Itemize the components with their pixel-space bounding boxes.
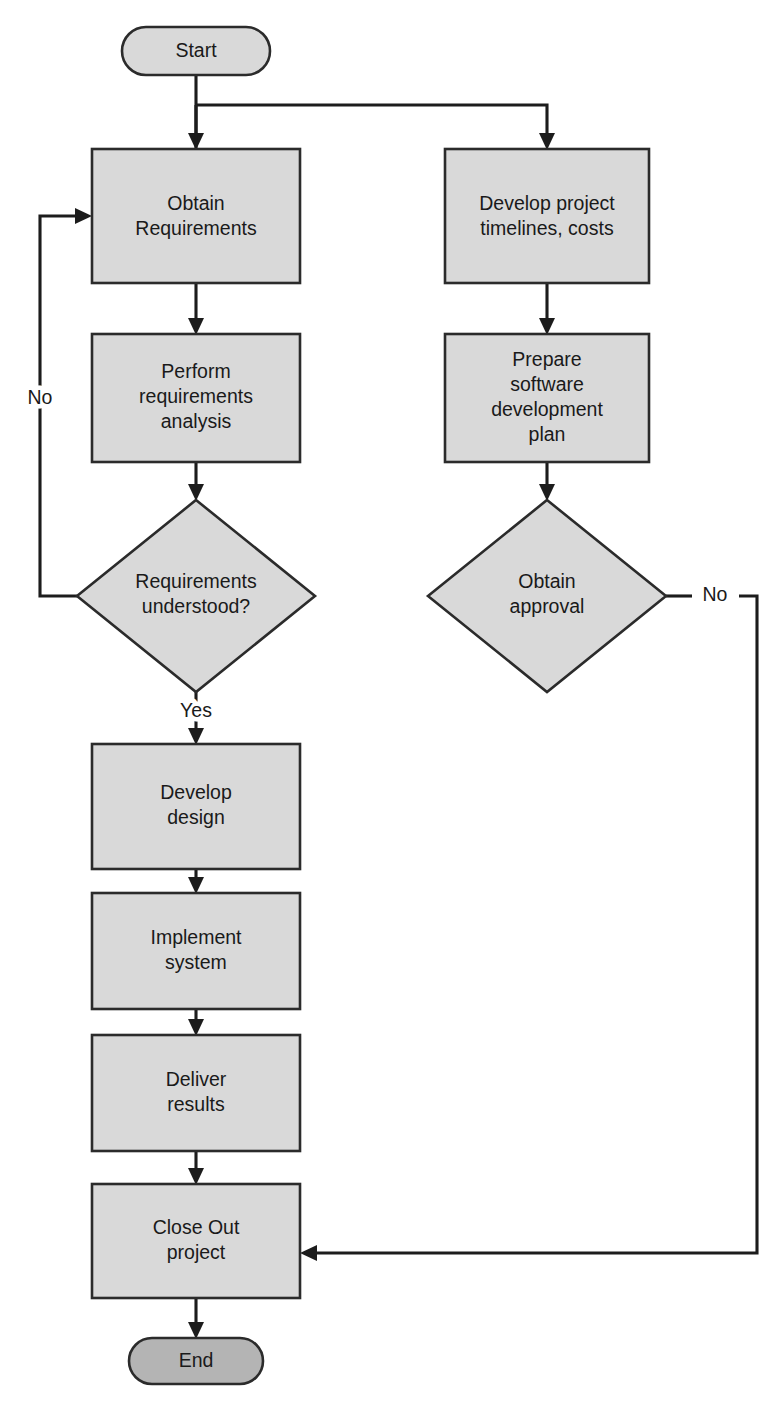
obtain-requirements-shape <box>92 149 300 283</box>
implement-system-label-line-1: Implement <box>150 926 242 948</box>
arrowhead-no-loop-to-obtain-requirements <box>75 208 92 224</box>
arrowhead-to-develop-timelines <box>539 133 555 150</box>
edge-approval-no-to-close-out <box>312 596 757 1253</box>
perform-requirements-analysis-label-line-3: analysis <box>161 410 232 432</box>
arrowhead-to-deliver-results <box>188 1019 204 1036</box>
arrowhead-to-close-out-project <box>188 1168 204 1185</box>
prepare-plan-label-line-1: Prepare <box>512 348 581 370</box>
node-prepare-software-development-plan[interactable]: Prepare software development plan <box>445 334 649 462</box>
prepare-plan-label-line-3: development <box>491 398 603 420</box>
arrowhead-yes-to-develop-design <box>188 728 204 745</box>
node-perform-requirements-analysis[interactable]: Perform requirements analysis <box>92 334 300 462</box>
node-requirements-understood[interactable]: Requirements understood? <box>77 500 315 692</box>
develop-design-label-line-1: Develop <box>160 781 232 803</box>
edge-branch-bar <box>196 105 547 142</box>
node-deliver-results[interactable]: Deliver results <box>92 1035 300 1151</box>
perform-requirements-analysis-label-line-1: Perform <box>161 360 230 382</box>
edge-label-approval-no: No <box>703 583 728 605</box>
perform-requirements-analysis-label-line-2: requirements <box>139 385 253 407</box>
arrowhead-to-implement-system <box>188 877 204 894</box>
deliver-results-label-line-1: Deliver <box>166 1068 227 1090</box>
deliver-results-label-line-2: results <box>167 1093 225 1115</box>
edge-label-requirements-no: No <box>28 386 53 408</box>
arrowhead-to-analysis <box>188 318 204 335</box>
arrowhead-no-to-close-out <box>300 1245 317 1261</box>
node-obtain-requirements[interactable]: Obtain Requirements <box>92 149 300 283</box>
node-layer: Start Obtain Requirements Develop projec… <box>77 27 666 1384</box>
prepare-plan-label-line-4: plan <box>529 423 566 445</box>
develop-project-timelines-shape <box>445 149 649 283</box>
node-develop-project-timelines[interactable]: Develop project timelines, costs <box>445 149 649 283</box>
requirements-understood-label-line-1: Requirements <box>135 570 257 592</box>
prepare-plan-label-line-2: software <box>510 373 584 395</box>
close-out-project-label-line-1: Close Out <box>153 1216 240 1238</box>
end-label: End <box>179 1349 214 1371</box>
requirements-understood-label-line-2: understood? <box>142 595 251 617</box>
start-label: Start <box>175 39 217 61</box>
arrowhead-to-end <box>188 1322 204 1339</box>
develop-project-timelines-label-line-2: timelines, costs <box>480 217 614 239</box>
node-implement-system[interactable]: Implement system <box>92 893 300 1009</box>
edge-label-requirements-yes: Yes <box>180 699 212 721</box>
obtain-requirements-label-line-2: Requirements <box>135 217 257 239</box>
flowchart-diagram: Start Obtain Requirements Develop projec… <box>0 0 771 1407</box>
obtain-requirements-label-line-1: Obtain <box>167 192 224 214</box>
obtain-approval-label-line-2: approval <box>510 595 585 617</box>
node-start[interactable]: Start <box>122 27 270 75</box>
implement-system-label-line-2: system <box>165 951 227 973</box>
close-out-project-label-line-2: project <box>167 1241 226 1263</box>
node-end[interactable]: End <box>129 1338 263 1384</box>
node-develop-design[interactable]: Develop design <box>92 744 300 869</box>
develop-project-timelines-label-line-1: Develop project <box>479 192 615 214</box>
develop-design-label-line-2: design <box>167 806 224 828</box>
node-obtain-approval[interactable]: Obtain approval <box>428 500 666 692</box>
obtain-approval-label-line-1: Obtain <box>518 570 575 592</box>
flowchart-canvas: Start Obtain Requirements Develop projec… <box>0 0 771 1407</box>
node-close-out-project[interactable]: Close Out project <box>92 1184 300 1298</box>
arrowhead-to-prepare-plan <box>539 318 555 335</box>
